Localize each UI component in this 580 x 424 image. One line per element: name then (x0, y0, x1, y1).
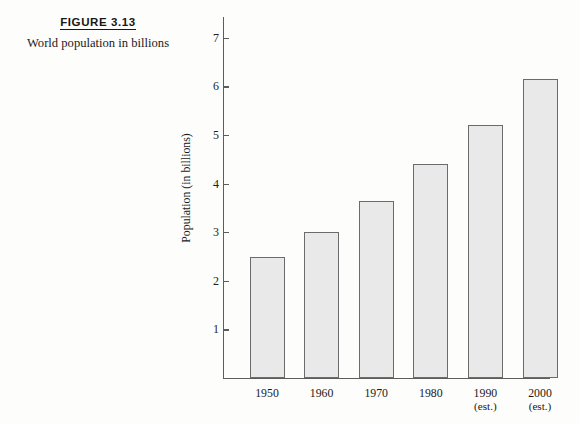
y-axis-tick-label: 2 (197, 273, 219, 288)
bar (468, 125, 503, 378)
bar (304, 232, 339, 378)
y-axis-tick-label: 7 (197, 30, 219, 45)
x-axis-label-estimate: (est.) (474, 400, 498, 414)
y-axis-tick (223, 135, 229, 136)
y-axis-tick (223, 281, 229, 282)
y-axis-tick (223, 329, 229, 330)
bar (359, 201, 394, 378)
x-axis-label-year: 1980 (419, 386, 443, 400)
y-axis-tick-label: 5 (197, 128, 219, 143)
x-axis-label: 1950 (255, 386, 279, 400)
y-axis-tick-label: 1 (197, 322, 219, 337)
y-axis-tick-label: 6 (197, 79, 219, 94)
y-axis-title: Population (in billions) (179, 133, 194, 242)
y-axis-tick-label: 4 (197, 176, 219, 191)
bar (250, 257, 285, 379)
bar (523, 79, 558, 378)
y-axis-tick (223, 184, 229, 185)
x-axis-label: 1960 (310, 386, 334, 400)
x-axis-label: 1980 (419, 386, 443, 400)
x-axis-label-year: 1970 (364, 386, 388, 400)
x-axis-label-year: 1950 (255, 386, 279, 400)
figure-page: FIGURE 3.13 World population in billions… (0, 0, 580, 424)
x-axis-label-year: 1960 (310, 386, 334, 400)
bar-chart: Population (in billions) 1234567 1950196… (0, 0, 580, 424)
y-axis-tick-label: 3 (197, 225, 219, 240)
y-axis-tick (223, 86, 229, 87)
y-axis-tick (223, 232, 229, 233)
y-axis-line (223, 17, 224, 379)
x-axis-line (223, 378, 550, 379)
y-axis-tick (223, 38, 229, 39)
x-axis-label-estimate: (est.) (528, 400, 552, 414)
x-axis-label: 1970 (364, 386, 388, 400)
x-axis-label-year: 1990 (474, 386, 498, 400)
x-axis-label: 2000(est.) (528, 386, 552, 414)
x-axis-label: 1990(est.) (474, 386, 498, 414)
x-axis-label-year: 2000 (528, 386, 552, 400)
bar (413, 164, 448, 378)
